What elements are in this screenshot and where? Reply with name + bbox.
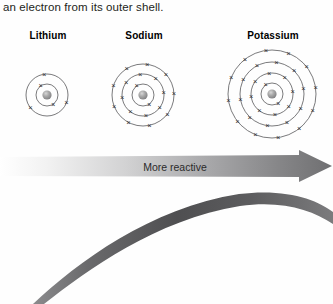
electron: × — [235, 117, 239, 126]
electron: × — [128, 107, 132, 116]
electron: × — [273, 110, 277, 119]
electron: × — [38, 81, 42, 90]
electron: × — [165, 110, 169, 119]
atom-sodium: ××××××××××××××××××× — [111, 60, 176, 130]
electron: × — [147, 100, 151, 109]
electron: × — [243, 55, 247, 64]
nucleus — [267, 89, 276, 98]
electron: × — [126, 118, 130, 127]
electron: × — [241, 75, 245, 84]
electron: × — [286, 49, 290, 58]
electron: × — [112, 102, 116, 111]
electron: × — [158, 103, 162, 112]
page-root: an electron from its outer shell. Lithiu… — [0, 0, 333, 304]
electron: × — [134, 81, 138, 90]
electron: × — [311, 106, 315, 115]
electron: × — [162, 88, 166, 97]
electron: × — [313, 83, 317, 92]
electron: × — [144, 111, 148, 120]
electron: × — [164, 70, 168, 79]
electron: × — [124, 64, 128, 73]
electron: × — [287, 102, 291, 111]
electron: × — [274, 58, 278, 67]
nucleus — [138, 90, 147, 99]
electron: × — [276, 99, 280, 108]
nucleus — [42, 90, 51, 99]
electron: × — [301, 84, 305, 93]
electron: × — [124, 78, 128, 87]
electron: × — [253, 130, 257, 139]
electron: × — [249, 92, 253, 101]
electron: × — [297, 124, 301, 133]
electron: × — [111, 81, 115, 90]
electron: × — [147, 121, 151, 130]
electron: × — [238, 95, 242, 104]
atom-label-lithium: Lithium — [22, 30, 74, 41]
electron: × — [120, 93, 124, 102]
body-paragraph: an electron from its outer shell. — [3, 1, 164, 13]
electron: × — [51, 100, 55, 109]
electron: × — [282, 73, 286, 82]
arc-shape — [33, 192, 333, 304]
electron: × — [299, 104, 303, 113]
atom-diagrams: ××××××××××××××××××××××××××××××××××××××××… — [0, 44, 333, 150]
electron: × — [172, 89, 176, 98]
electron: × — [138, 70, 142, 79]
atom-lithium: ××××× — [26, 70, 69, 116]
electron: × — [257, 106, 261, 115]
electron: × — [64, 98, 68, 107]
electron: × — [304, 62, 308, 71]
atom-potassium: ×××××××××××××××××××××××××××××××× — [226, 46, 318, 142]
electron: × — [267, 69, 271, 78]
electron: × — [264, 46, 268, 55]
electron: × — [292, 66, 296, 75]
electron: × — [276, 133, 280, 142]
electron: × — [248, 113, 252, 122]
electron: × — [263, 80, 267, 89]
electron: × — [145, 60, 149, 69]
electron: × — [226, 96, 230, 105]
electron: × — [285, 118, 289, 127]
electron: × — [229, 73, 233, 82]
electron: × — [265, 121, 269, 130]
electron: × — [255, 61, 259, 70]
atoms-group: ××××××××××××××××××××××××××××××××××××××××… — [26, 46, 318, 142]
electron: × — [253, 77, 257, 86]
electron: × — [42, 70, 46, 79]
arrow-label: More reactive — [127, 161, 223, 173]
decorative-arc — [0, 190, 333, 304]
electron: × — [153, 74, 157, 83]
electron: × — [28, 103, 32, 112]
electron: × — [291, 87, 295, 96]
atom-label-sodium: Sodium — [116, 30, 172, 41]
atom-label-potassium: Potassium — [238, 30, 308, 41]
